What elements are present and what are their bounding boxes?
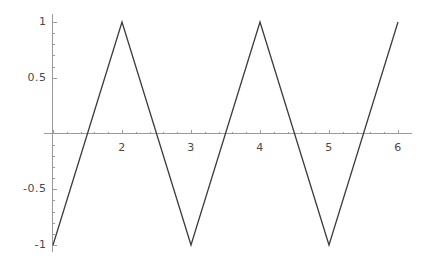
x-tick-label-2: 2	[102, 142, 142, 153]
x-tick-label-3: 3	[171, 142, 211, 153]
chart-svg	[0, 0, 425, 266]
y-tick-label-05: -0.5	[23, 183, 46, 194]
plot-canvas: 10.5-0.5-1 23456	[0, 0, 425, 266]
x-tick-label-4: 4	[240, 142, 280, 153]
y-tick-label-05: 0.5	[28, 72, 47, 83]
y-tick-label-1: -1	[35, 239, 47, 250]
x-tick-label-5: 5	[309, 142, 349, 153]
x-tick-label-6: 6	[378, 142, 418, 153]
y-tick-label-1: 1	[39, 16, 47, 27]
